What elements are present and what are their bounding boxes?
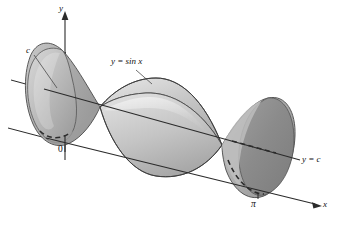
pi-label: π <box>251 200 256 210</box>
figure-canvas: y x c 0 π y = sin x y = c <box>0 0 338 226</box>
y-axis-label: y <box>59 4 63 13</box>
revolution-axis-label: y = c <box>302 155 321 164</box>
c-value-label: c <box>26 46 30 55</box>
x-axis-label: x <box>323 200 327 209</box>
sine-curve-label: y = sin x <box>111 57 142 66</box>
middle-lens-solid <box>100 78 222 177</box>
x-axis-arrowhead <box>312 202 322 208</box>
origin-label: 0 <box>58 145 63 155</box>
solid-of-revolution-diagram <box>0 0 338 226</box>
